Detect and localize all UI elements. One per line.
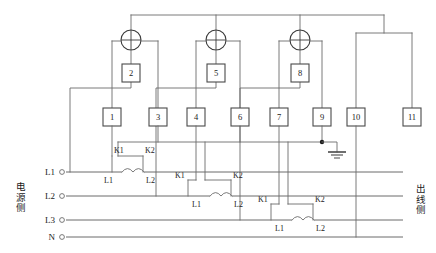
box-label: 3 xyxy=(156,112,160,122)
phase-terminals: L1 L2 L3 N xyxy=(45,167,64,242)
ct-l1-label: L1 xyxy=(275,224,284,233)
terminal-l1[interactable] xyxy=(60,170,65,175)
terminal-box-6[interactable]: 6 xyxy=(231,108,249,126)
box-label: 1 xyxy=(110,112,114,122)
terminal-box-10[interactable]: 10 xyxy=(347,108,365,126)
ct-l2-label: L2 xyxy=(234,200,243,209)
ct-group-l2: K1 K2 L1 L2 xyxy=(175,126,243,209)
terminal-box-3[interactable]: 3 xyxy=(149,108,167,126)
terminal-box-1[interactable]: 1 xyxy=(103,108,121,126)
phase-label-l1: L1 xyxy=(45,167,55,177)
phase-label-l2: L2 xyxy=(45,191,55,201)
ct-l2-label: L2 xyxy=(146,176,155,185)
terminal-box-5[interactable]: 5 xyxy=(207,64,225,82)
box-label: 11 xyxy=(408,112,416,122)
box-label: 6 xyxy=(238,112,242,122)
box-label: 7 xyxy=(277,112,281,122)
terminal-l2[interactable] xyxy=(60,194,65,199)
box-label: 8 xyxy=(298,68,302,78)
diagram-svg: 2 5 8 1 3 4 6 7 xyxy=(0,0,436,253)
terminal-box-8[interactable]: 8 xyxy=(291,64,309,82)
terminal-n[interactable] xyxy=(60,235,65,240)
outgoing-side-label: 出线侧 xyxy=(414,184,428,216)
terminal-box-9[interactable]: 9 xyxy=(313,108,331,126)
ct-k1-label: K1 xyxy=(114,146,124,155)
terminal-box-11[interactable]: 11 xyxy=(403,108,421,126)
top-bus xyxy=(131,15,412,108)
earth-ground-icon xyxy=(322,142,346,158)
secondary-return-bus xyxy=(118,126,324,144)
ct-k2-label: K2 xyxy=(145,146,155,155)
box-label: 9 xyxy=(320,112,324,122)
terminal-box-4[interactable]: 4 xyxy=(187,108,205,126)
terminal-box-2[interactable]: 2 xyxy=(122,64,140,82)
box-label: 2 xyxy=(129,68,133,78)
ct-l2-label: L2 xyxy=(316,224,325,233)
wiring-diagram-canvas: 2 5 8 1 3 4 6 7 xyxy=(0,0,436,253)
box-label: 5 xyxy=(214,68,218,78)
ct-l1-label: L1 xyxy=(192,200,201,209)
terminal-box-7[interactable]: 7 xyxy=(270,108,288,126)
ct-l1-label: L1 xyxy=(104,176,113,185)
phase-label-l3: L3 xyxy=(45,215,55,225)
terminal-l3[interactable] xyxy=(60,218,65,223)
source-side-label: 电源侧 xyxy=(14,182,28,214)
ct-group-l1: K1 K2 L1 L2 xyxy=(104,126,155,185)
phase-label-n: N xyxy=(49,232,56,242)
box-label: 10 xyxy=(352,112,361,122)
